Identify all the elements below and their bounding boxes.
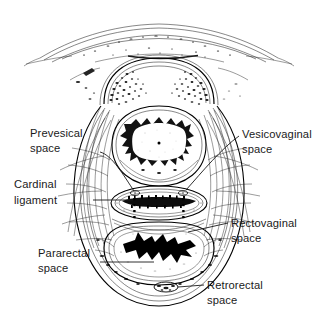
label-pararectal-line2: space: [38, 262, 68, 274]
diagram-canvas: Prevesical space Cardinal ligament Parar…: [0, 0, 317, 317]
label-cardinal-line1: Cardinal: [14, 178, 56, 190]
label-prevesical-line1: Prevesical: [30, 127, 83, 139]
label-cardinal-line2: ligament: [14, 194, 58, 206]
label-retrorectal-line2: space: [207, 294, 237, 306]
label-rectovaginal-line2: space: [231, 232, 261, 244]
label-vesicovaginal-line2: space: [242, 143, 272, 155]
label-vesicovaginal-line1: Vesicovaginal: [242, 128, 312, 140]
label-prevesical-line2: space: [30, 142, 60, 154]
label-retrorectal-line1: Retrorectal: [207, 279, 263, 291]
label-pararectal-line1: Pararectal: [38, 247, 90, 259]
bladder-center-dot: [158, 142, 161, 145]
label-rectovaginal-line1: Rectovaginal: [231, 217, 297, 229]
pelvic-spaces-diagram: Prevesical space Cardinal ligament Parar…: [0, 0, 317, 317]
